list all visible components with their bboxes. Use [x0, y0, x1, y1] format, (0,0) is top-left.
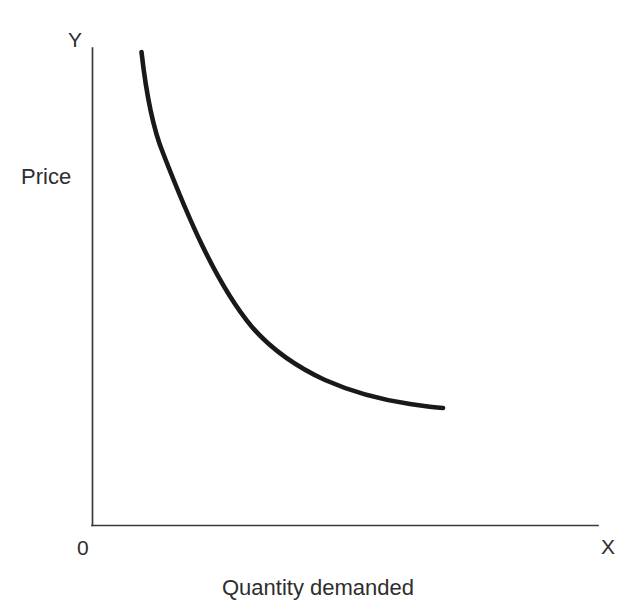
x-axis-title: Quantity demanded	[0, 577, 636, 599]
x-axis-tip-label: X	[601, 536, 615, 557]
y-axis-title: Price	[21, 166, 71, 188]
demand-curve-figure: Y X 0 Price Quantity demanded	[0, 0, 636, 612]
demand-curve-path	[142, 52, 444, 408]
y-axis-tip-label: Y	[68, 29, 82, 50]
plot-area	[0, 0, 636, 612]
origin-label: 0	[77, 537, 89, 558]
